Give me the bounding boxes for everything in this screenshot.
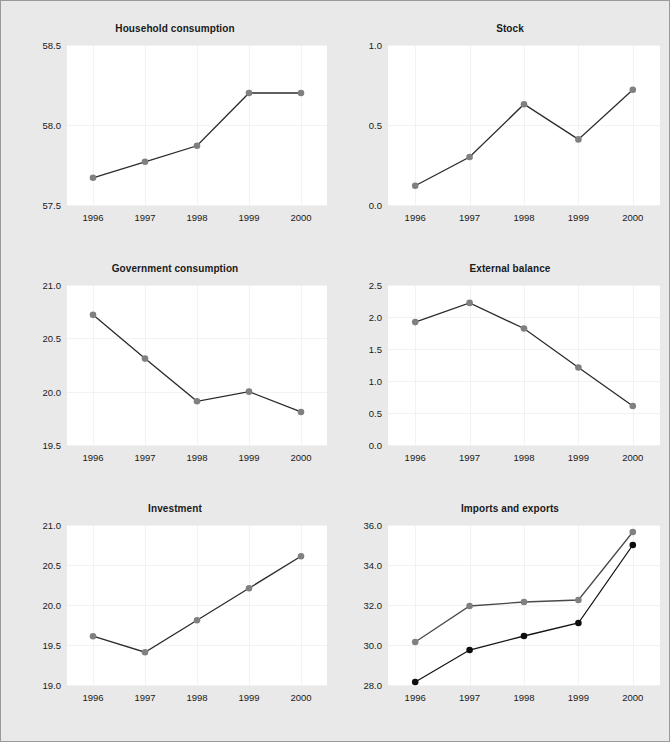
chart-panel: Household consumption57.558.058.51996199… (15, 23, 335, 241)
x-axis-tick-label: 2000 (622, 452, 643, 463)
data-point-marker (630, 403, 637, 410)
x-axis-tick-label: 1997 (134, 212, 155, 223)
y-axis-tick-label: 0.5 (350, 120, 382, 131)
panel-title: External balance (350, 263, 670, 274)
y-axis-tick-label: 30.0 (350, 640, 382, 651)
data-point-marker (466, 300, 473, 307)
data-point-marker (466, 154, 473, 161)
y-axis-tick-label: 58.5 (15, 40, 61, 51)
x-axis-tick-label: 1998 (186, 452, 207, 463)
y-axis-tick-label: 19.5 (15, 640, 61, 651)
x-axis-tick-label: 2000 (622, 212, 643, 223)
plot-area-wrapper (67, 45, 327, 205)
x-axis-tick-label: 1998 (186, 212, 207, 223)
data-point-marker (575, 136, 582, 143)
y-axis-tick-label: 32.0 (350, 600, 382, 611)
data-point-marker (142, 649, 149, 656)
panel-title: Stock (350, 23, 670, 34)
panel-title: Household consumption (15, 23, 335, 34)
data-point-marker (575, 620, 582, 627)
data-point-marker (521, 633, 528, 640)
data-point-marker (142, 355, 149, 362)
x-axis-tick-label: 1997 (134, 452, 155, 463)
data-point-marker (90, 312, 97, 319)
panel-title: Investment (15, 503, 335, 514)
x-axis-tick-label: 1999 (238, 692, 259, 703)
y-axis-tick-label: 2.5 (350, 280, 382, 291)
x-axis-tick-label: 2000 (290, 692, 311, 703)
y-axis-tick-label: 0.0 (350, 440, 382, 451)
data-point-marker (521, 325, 528, 332)
x-axis-tick-label: 1999 (568, 692, 589, 703)
data-point-marker (575, 597, 582, 604)
x-axis-tick-label: 1996 (405, 212, 426, 223)
y-axis-tick-label: 20.5 (15, 333, 61, 344)
x-axis-tick-label: 1996 (405, 692, 426, 703)
y-axis-tick-label: 1.0 (350, 376, 382, 387)
data-point-marker (630, 542, 637, 549)
x-axis-tick-label: 1996 (82, 212, 103, 223)
series-line (415, 545, 633, 682)
x-axis-tick-label: 1997 (134, 692, 155, 703)
series-line (415, 303, 633, 406)
gridline-horizontal (67, 685, 327, 686)
plot-area-wrapper (67, 525, 327, 685)
data-point-marker (298, 90, 305, 97)
series-plot (388, 525, 660, 685)
x-axis-tick-label: 1997 (459, 692, 480, 703)
data-point-marker (575, 364, 582, 371)
y-axis-tick-label: 20.0 (15, 386, 61, 397)
data-point-marker (412, 319, 419, 326)
data-point-marker (466, 603, 473, 610)
series-plot (67, 285, 327, 445)
data-point-marker (466, 647, 473, 654)
y-axis-tick-label: 20.5 (15, 560, 61, 571)
x-axis-tick-label: 2000 (290, 212, 311, 223)
data-point-marker (90, 175, 97, 182)
data-point-marker (298, 553, 305, 560)
y-axis-tick-label: 19.5 (15, 440, 61, 451)
data-point-marker (246, 90, 253, 97)
x-axis-tick-label: 1997 (459, 212, 480, 223)
series-plot (67, 45, 327, 205)
data-point-marker (412, 679, 419, 686)
plot-area-wrapper (388, 525, 660, 685)
x-axis-tick-label: 1996 (82, 692, 103, 703)
y-axis-tick-label: 1.5 (350, 344, 382, 355)
data-point-marker (521, 101, 528, 108)
data-point-marker (194, 143, 201, 150)
x-axis-tick-label: 1998 (513, 212, 534, 223)
data-point-marker (194, 617, 201, 624)
x-axis-tick-label: 1996 (82, 452, 103, 463)
data-point-marker (521, 599, 528, 606)
y-axis-tick-label: 0.5 (350, 408, 382, 419)
y-axis-tick-label: 19.0 (15, 680, 61, 691)
gridline-horizontal (67, 445, 327, 446)
x-axis-tick-label: 1998 (513, 452, 534, 463)
series-plot (67, 525, 327, 685)
y-axis-tick-label: 28.0 (350, 680, 382, 691)
y-axis-tick-label: 0.0 (350, 200, 382, 211)
plot-area-wrapper (67, 285, 327, 445)
x-axis-tick-label: 2000 (622, 692, 643, 703)
x-axis-tick-label: 1998 (513, 692, 534, 703)
data-point-marker (630, 529, 637, 536)
gridline-horizontal (388, 445, 660, 446)
gridline-horizontal (67, 205, 327, 206)
chart-panel: Imports and exports28.030.032.034.036.01… (350, 503, 670, 721)
data-point-marker (412, 183, 419, 190)
series-plot (388, 45, 660, 205)
series-line (415, 532, 633, 642)
plot-area-wrapper (388, 45, 660, 205)
x-axis-tick-label: 1997 (459, 452, 480, 463)
x-axis-tick-label: 1998 (186, 692, 207, 703)
x-axis-tick-label: 1999 (568, 212, 589, 223)
x-axis-tick-label: 1999 (238, 212, 259, 223)
chart-panel: External balance0.00.51.01.52.02.5199619… (350, 263, 670, 481)
data-point-marker (90, 633, 97, 640)
data-point-marker (246, 388, 253, 395)
data-point-marker (142, 159, 149, 166)
data-point-marker (412, 639, 419, 646)
panel-title: Government consumption (15, 263, 335, 274)
plot-area-wrapper (388, 285, 660, 445)
